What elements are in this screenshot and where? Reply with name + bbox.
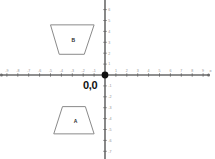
y-axis-tick-label: -5 [108,128,111,132]
x-axis-tick-label: -2 [82,69,85,73]
plot-svg: -9-8-7-6-5-4-3-2-11234567897654321-1-2-3… [0,0,215,159]
origin-label: 0,0 [83,80,97,91]
coordinate-plane-figure: -9-8-7-6-5-4-3-2-11234567897654321-1-2-3… [0,0,215,159]
shape-label-a: A [74,118,78,124]
x-axis-tick-label: 8 [191,69,193,73]
x-axis-tick-label: -9 [5,69,8,73]
x-axis-tick-label: 5 [159,69,161,73]
y-axis-tick-label: 3 [108,41,110,45]
y-axis-tick-label: 2 [108,52,110,56]
origin-point [102,72,109,79]
x-axis-tick-label: -4 [60,69,63,73]
y-axis-tick-label: -1 [108,84,111,88]
y-axis-tick-label: 1 [108,62,110,66]
x-axis-left-endpoint [0,74,3,77]
x-axis-tick-label: 3 [137,69,139,73]
y-axis-tick-label: -2 [108,95,111,99]
y-axis-tick-label: -6 [108,139,111,143]
axes-group: -9-8-7-6-5-4-3-2-11234567897654321-1-2-3… [0,0,213,159]
y-axis-tick-label: 7 [108,0,110,1]
x-axis-tick-label: 2 [126,69,128,73]
x-axis-tick-label: 7 [180,69,182,73]
y-axis-tick-label: -3 [108,106,111,110]
x-axis-tick-label: 1 [115,69,117,73]
x-axis-tick-label: -5 [49,69,52,73]
y-axis-tick-label: -7 [108,150,111,154]
y-axis-tick-label: 5 [108,19,110,23]
x-axis-tick-label: 9 [202,69,204,73]
x-axis-tick-label: -3 [71,69,74,73]
x-axis-tick-label: 4 [148,69,150,73]
y-axis-tick-label: 4 [108,30,110,34]
shape-label-b: B [72,37,76,43]
x-axis-right-endpoint [207,74,210,77]
x-axis-tick-label: 6 [169,69,171,73]
x-axis-label: x [210,68,213,73]
x-axis-tick-label: -8 [16,69,19,73]
x-axis-tick-label: -1 [92,69,95,73]
y-axis-tick-label: 6 [108,8,110,12]
x-axis-tick-label: -7 [27,69,30,73]
y-axis-tick-label: -4 [108,117,111,121]
x-axis-tick-label: -6 [38,69,41,73]
